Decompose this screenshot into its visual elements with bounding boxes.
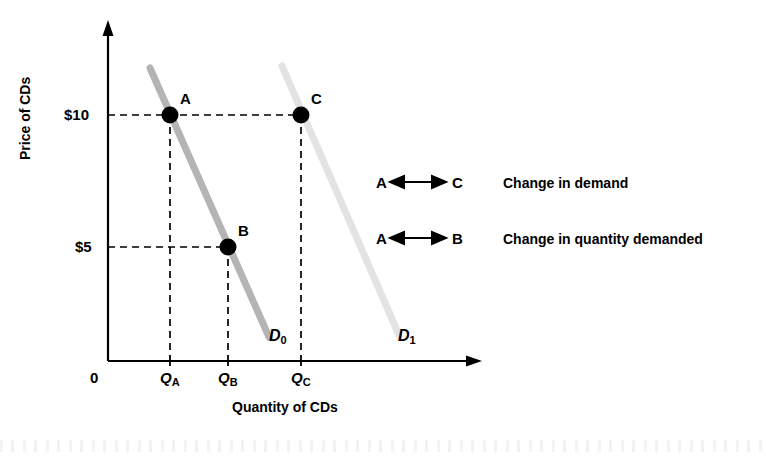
x-tick-label-qa-base: Q [160, 369, 172, 386]
legend-description-demand: Change in demand [503, 176, 628, 190]
y-tick-label-5: $5 [75, 239, 92, 254]
x-tick-label-qc-base: Q [291, 369, 303, 386]
data-point-a [162, 107, 179, 124]
legend-arrows-group [390, 176, 446, 244]
x-tick-label-qc: QC [291, 370, 311, 385]
demand-curve-figure: $10 $5 Price of CDs 0 QA QB QC Quantity … [0, 0, 766, 457]
legend-to-label-demand: C [452, 175, 463, 190]
legend-arrow-right-demand [432, 176, 446, 188]
legend-description-quantity: Change in quantity demanded [503, 232, 703, 246]
data-points-group [162, 107, 310, 256]
y-axis-title: Price of CDs [18, 77, 32, 160]
curve-label-d0-sub: 0 [281, 334, 287, 346]
x-axis-title: Quantity of CDs [232, 400, 338, 414]
guide-lines-group [108, 115, 301, 355]
data-point-label-c: C [311, 91, 322, 106]
x-axis-arrowhead [466, 356, 482, 367]
curve-label-d1-sub: 1 [410, 334, 416, 346]
curve-label-d1: D1 [398, 328, 416, 344]
legend-to-label-quantity: B [452, 231, 463, 246]
x-tick-label-qc-sub: C [303, 376, 311, 388]
legend-arrow-right-quantity [432, 232, 446, 244]
data-point-b [220, 239, 237, 256]
legend-arrow-left-demand [390, 176, 404, 188]
x-tick-label-qb-base: Q [218, 369, 230, 386]
demand-curve-d1 [282, 66, 399, 335]
curve-label-d0: D0 [269, 328, 287, 344]
y-tick-label-10: $10 [64, 107, 89, 122]
scan-artifact-strip [0, 440, 766, 452]
curve-label-d0-base: D [269, 327, 281, 344]
legend-from-label-quantity: A [376, 231, 387, 246]
legend-from-label-demand: A [376, 175, 387, 190]
x-tick-label-qa: QA [160, 370, 180, 385]
origin-label: 0 [90, 370, 98, 385]
axes-group [103, 20, 483, 367]
chart-canvas [0, 0, 766, 457]
x-tick-label-qa-sub: A [172, 376, 180, 388]
x-tick-label-qb: QB [218, 370, 238, 385]
x-tick-label-qb-sub: B [230, 376, 238, 388]
data-point-label-b: B [238, 223, 249, 238]
data-point-c [293, 107, 310, 124]
y-axis-arrowhead [103, 20, 114, 36]
legend-arrow-left-quantity [390, 232, 404, 244]
curve-label-d1-base: D [398, 327, 410, 344]
data-point-label-a: A [180, 91, 191, 106]
